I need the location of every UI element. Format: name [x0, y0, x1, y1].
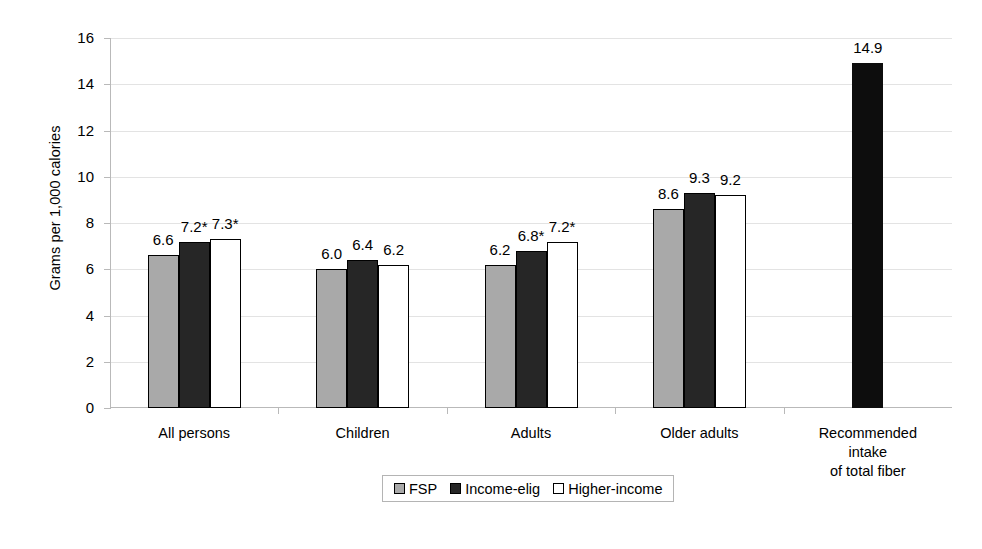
bar-recommended-intake-of-total-fiber-recommended-intake	[852, 63, 883, 408]
y-tick-label: 12	[48, 122, 94, 139]
x-category-label: Children	[336, 424, 390, 443]
x-tick-mark	[278, 407, 279, 414]
y-tick-mark	[104, 84, 111, 85]
bar-fsp-all-persons	[148, 255, 179, 408]
y-tick-mark	[104, 316, 111, 317]
bar-income-elig-older-adults	[684, 193, 715, 408]
x-tick-mark	[615, 407, 616, 414]
bar-higher-income-older-adults	[715, 195, 746, 408]
gridline	[110, 38, 952, 39]
x-category-label: Recommended intake of total fiber	[819, 424, 917, 481]
bar-value-label: 6.8*	[518, 227, 545, 244]
y-tick-label: 16	[48, 29, 94, 46]
bar-higher-income-adults	[547, 242, 578, 409]
bar-value-label: 6.6	[153, 231, 174, 248]
x-category-label: All persons	[158, 424, 230, 443]
plot-area: 02468101214166.67.2*7.3*All persons6.06.…	[110, 38, 952, 408]
bar-value-label: 7.2*	[181, 218, 208, 235]
legend-swatch-icon	[450, 483, 461, 494]
bar-value-label: 9.2	[720, 171, 741, 188]
bar-value-label: 6.2	[383, 241, 404, 258]
bar-value-label: 7.2*	[549, 218, 576, 235]
x-tick-mark	[447, 407, 448, 414]
x-tick-mark	[784, 407, 785, 414]
bar-fsp-children	[316, 269, 347, 408]
bar-chart: Grams per 1,000 calories 02468101214166.…	[0, 0, 982, 549]
bar-higher-income-all-persons	[210, 239, 241, 408]
legend-label: Income-elig	[465, 481, 540, 497]
bar-value-label: 6.0	[321, 245, 342, 262]
y-tick-label: 14	[48, 75, 94, 92]
bar-income-elig-all-persons	[179, 242, 210, 409]
y-tick-mark	[104, 131, 111, 132]
bar-income-elig-adults	[516, 251, 547, 408]
y-tick-mark	[104, 38, 111, 39]
y-tick-label: 0	[48, 399, 94, 416]
gridline	[110, 177, 952, 178]
bar-value-label: 14.9	[853, 39, 882, 56]
bar-value-label: 6.4	[352, 236, 373, 253]
bar-higher-income-children	[378, 265, 409, 408]
bar-value-label: 9.3	[689, 169, 710, 186]
gridline	[110, 84, 952, 85]
legend-swatch-icon	[553, 483, 564, 494]
y-tick-label: 2	[48, 353, 94, 370]
y-tick-label: 8	[48, 214, 94, 231]
bar-value-label: 7.3*	[212, 215, 239, 232]
legend-item[interactable]: FSP	[394, 481, 437, 497]
y-tick-mark	[104, 362, 111, 363]
y-tick-mark	[104, 177, 111, 178]
y-tick-mark	[104, 223, 111, 224]
bar-value-label: 6.2	[490, 241, 511, 258]
bar-income-elig-children	[347, 260, 378, 408]
y-tick-label: 4	[48, 307, 94, 324]
legend-swatch-icon	[394, 483, 405, 494]
bar-fsp-adults	[485, 265, 516, 408]
legend-item[interactable]: Higher-income	[553, 481, 662, 497]
x-category-label: Older adults	[660, 424, 738, 443]
gridline	[110, 131, 952, 132]
y-tick-label: 10	[48, 168, 94, 185]
y-tick-mark	[104, 269, 111, 270]
legend-label: FSP	[409, 481, 437, 497]
chart-legend: FSPIncome-eligHigher-income	[382, 475, 674, 502]
legend-label: Higher-income	[568, 481, 662, 497]
y-tick-mark	[104, 408, 111, 409]
bar-fsp-older-adults	[653, 209, 684, 408]
x-category-label: Adults	[511, 424, 551, 443]
legend-item[interactable]: Income-elig	[450, 481, 540, 497]
bar-value-label: 8.6	[658, 185, 679, 202]
y-tick-label: 6	[48, 260, 94, 277]
